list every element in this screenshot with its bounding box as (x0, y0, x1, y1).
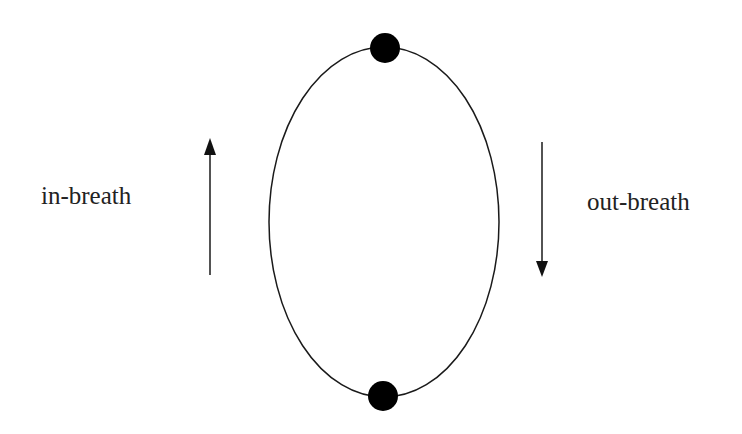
top-node-dot (370, 33, 400, 63)
breath-cycle-ellipse (269, 47, 499, 397)
diagram-graphic (0, 0, 742, 434)
out-breath-label: out-breath (587, 189, 690, 214)
in-breath-label: in-breath (41, 183, 131, 208)
bottom-node-dot (368, 381, 398, 411)
up-arrow-icon (204, 138, 216, 275)
breath-cycle-diagram: in-breath out-breath (0, 0, 742, 434)
down-arrow-icon (536, 142, 548, 277)
